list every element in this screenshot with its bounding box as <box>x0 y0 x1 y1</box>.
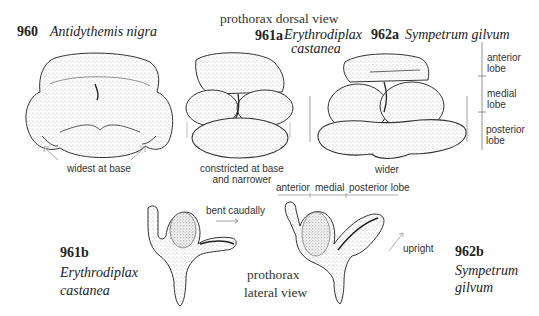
label-lobe: lobe <box>486 135 525 146</box>
label-medial: medial <box>487 88 516 99</box>
title-lateral-line2: lateral view <box>244 284 307 302</box>
species-name-961a: Erythrodiplax castanea <box>284 28 362 56</box>
label-lobe: lobe <box>487 99 516 110</box>
note-widest-at-base: widest at base <box>67 163 131 174</box>
drawing-961a-dorsal <box>186 53 293 158</box>
label-anterior-lobe: anterior lobe <box>487 52 521 74</box>
species-name-962a: Sympetrum gilvum <box>405 27 510 43</box>
species-epithet-961b: castanea <box>60 282 138 300</box>
species-name-962b: Sympetrum gilvum <box>455 262 518 296</box>
note-constricted-line2: and narrower <box>200 174 284 185</box>
species-name-960: Antidythemis nigra <box>50 24 157 40</box>
note-constricted: constricted at base and narrower <box>200 163 284 185</box>
note-wider: wider <box>375 164 399 175</box>
label-posterior-lobe: posterior lobe <box>486 124 525 146</box>
specimen-number-962b: 962b <box>455 244 484 260</box>
species-genus-961b: Erythrodiplax <box>60 264 138 282</box>
label-h-posterior-lobe: posterior lobe <box>349 182 410 193</box>
label-posterior: posterior <box>486 124 525 135</box>
specimen-number-960: 960 <box>17 24 38 40</box>
figure-plate: prothorax dorsal view 960 Antidythemis n… <box>0 0 539 316</box>
specimen-number-961b: 961b <box>60 245 89 261</box>
specimen-number-961a: 961a <box>255 28 283 44</box>
label-medial-lobe: medial lobe <box>487 88 516 110</box>
species-genus-961a: Erythrodiplax <box>284 28 362 42</box>
species-name-961b: Erythrodiplax castanea <box>60 264 138 300</box>
arrow-bent-caudally <box>216 219 238 223</box>
horizontal-lobe-bracket <box>278 193 398 198</box>
label-h-medial: medial <box>315 182 344 193</box>
note-constricted-line1: constricted at base <box>200 163 284 174</box>
title-lateral-line1: prothorax <box>244 266 307 284</box>
label-anterior: anterior <box>487 52 521 63</box>
species-epithet-962b: gilvum <box>455 279 518 296</box>
specimen-number-962a: 962a <box>371 27 399 43</box>
label-lobe: lobe <box>487 63 521 74</box>
note-bent-caudally: bent caudally <box>206 205 265 216</box>
arrow-upright <box>389 233 403 251</box>
species-epithet-961a: castanea <box>284 42 362 56</box>
drawing-962a-dorsal <box>310 54 467 159</box>
title-lateral-view: prothorax lateral view <box>244 266 307 302</box>
drawing-960-dorsal <box>26 53 173 157</box>
species-genus-962b: Sympetrum <box>455 262 518 279</box>
note-upright: upright <box>403 243 434 254</box>
vertical-lobe-bracket <box>478 42 486 150</box>
title-dorsal-view: prothorax dorsal view <box>220 11 338 27</box>
label-h-anterior: anterior <box>276 182 310 193</box>
